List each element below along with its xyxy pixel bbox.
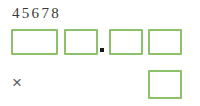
answer-box-3[interactable] [109, 29, 143, 55]
number-line-digits: 45678 [12, 5, 61, 21]
multiplication-sign-icon: × [9, 74, 25, 92]
decimal-point-marker [100, 48, 104, 52]
answer-box-4[interactable] [148, 29, 182, 55]
worksheet-canvas: 45678 × [0, 0, 200, 106]
answer-box-2[interactable] [64, 29, 98, 55]
operand-box-1[interactable] [148, 70, 182, 99]
answer-box-1[interactable] [11, 29, 58, 55]
